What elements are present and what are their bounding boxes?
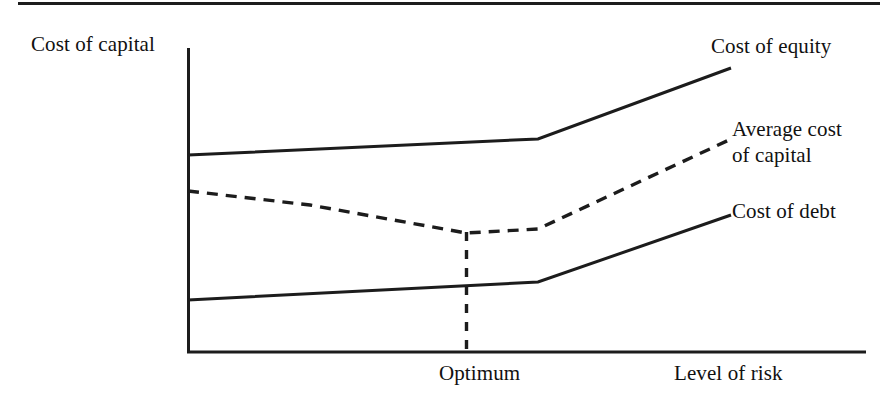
series-label-average-cost-line-2: of capital bbox=[732, 143, 812, 167]
y-axis-label: Cost of capital bbox=[31, 31, 155, 57]
series-line-cost-of-equity bbox=[188, 68, 731, 155]
series-label-cost-of-debt: Cost of debt bbox=[732, 198, 836, 224]
series-label-average-cost-of-capital: Average costof capital bbox=[732, 116, 842, 168]
series-label-average-cost-line-1: Average cost bbox=[732, 117, 842, 141]
x-axis-label: Level of risk bbox=[674, 360, 783, 386]
series-line-average-cost-of-capital bbox=[188, 140, 729, 233]
optimum-label: Optimum bbox=[439, 360, 520, 386]
series-line-cost-of-debt bbox=[188, 215, 731, 300]
series-label-cost-of-equity: Cost of equity bbox=[711, 33, 831, 59]
figure-container: Cost of capital Cost of equity Average c… bbox=[0, 0, 887, 405]
